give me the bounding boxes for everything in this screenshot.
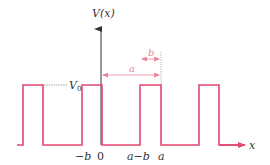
barrier-width-label: b (148, 47, 154, 58)
tick-label-a: a (158, 150, 165, 163)
tick-label-minus-b: −b (75, 150, 91, 163)
tick-label-a-minus-b: a−b (127, 150, 150, 163)
v0-label: V0 (69, 79, 81, 93)
x-axis-label: x (249, 139, 256, 152)
period-label: a (129, 63, 135, 74)
y-axis-label: V(x) (92, 7, 115, 20)
tick-label-zero: 0 (97, 150, 104, 163)
potential-diagram: V(x) x V0 a b −b 0 a−b a (0, 0, 270, 165)
potential-waveform (17, 85, 240, 145)
